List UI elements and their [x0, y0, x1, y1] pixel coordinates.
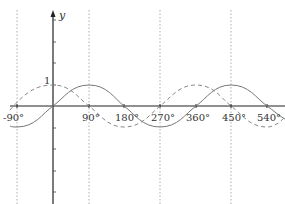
x-tick-label-540: 540°	[257, 112, 281, 123]
x-tick-label-270: 270°	[151, 112, 175, 123]
x-tick-label-neg90: -90°	[3, 112, 24, 123]
sine-cosine-chart: y 1 -90° 90° 180° 270° 360° 450° 540°	[0, 0, 285, 204]
x-tick-label-450: 450°	[222, 112, 246, 123]
y-axis-label: y	[58, 9, 66, 22]
x-tick-label-360: 360°	[186, 112, 210, 123]
x-tick-label-180: 180°	[115, 112, 139, 123]
x-tick-label-90: 90°	[82, 112, 100, 123]
y-tick-label-1: 1	[44, 75, 50, 86]
